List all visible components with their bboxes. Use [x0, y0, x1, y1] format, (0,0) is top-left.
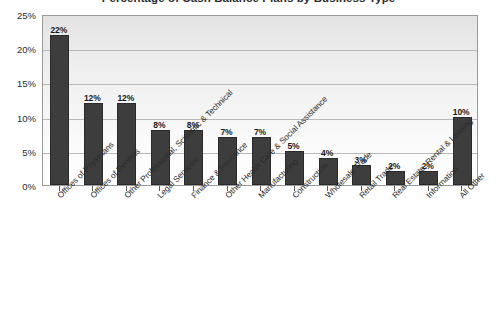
bar-value-label: 5% — [287, 141, 299, 151]
gridline — [43, 84, 477, 85]
y-axis-tick-label: 15% — [0, 78, 36, 89]
bar-value-label: 8% — [153, 120, 165, 130]
bar — [50, 35, 69, 186]
y-axis-tick-label: 5% — [0, 146, 36, 157]
y-axis-tick-label: 20% — [0, 44, 36, 55]
gridline — [43, 119, 477, 120]
bar-chart: Percentage of Cash Balance Plans by Busi… — [0, 0, 497, 311]
bar-value-label: 22% — [50, 25, 67, 35]
bar-value-label: 12% — [117, 93, 134, 103]
bar-value-label: 7% — [220, 127, 232, 137]
y-axis-tick-label: 0% — [0, 181, 36, 192]
chart-title: Percentage of Cash Balance Plans by Busi… — [0, 0, 497, 4]
bar-value-label: 12% — [84, 93, 101, 103]
gridline — [43, 50, 477, 51]
bar-value-label: 7% — [254, 127, 266, 137]
y-axis-tick-label: 25% — [0, 10, 36, 21]
y-axis-tick-label: 10% — [0, 112, 36, 123]
bar-value-label: 4% — [321, 148, 333, 158]
